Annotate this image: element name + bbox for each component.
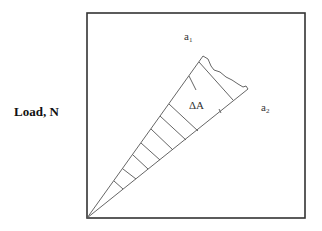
load-displacement-diagram: a1 a2 ΔA (0, 0, 322, 231)
plot-frame (87, 13, 305, 218)
label-a1: a1 (184, 30, 193, 44)
label-delta-area: ΔA (189, 99, 204, 111)
crack-growth-edge (203, 56, 248, 89)
load-line-a2 (87, 89, 248, 218)
hatch-lines (114, 62, 233, 189)
load-line-a1 (87, 56, 203, 218)
label-a2: a2 (261, 101, 270, 115)
